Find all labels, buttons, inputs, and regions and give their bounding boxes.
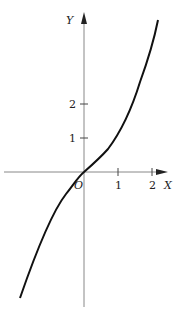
y-tick-label-1: 1	[69, 132, 76, 145]
x-axis-arrow-icon	[156, 169, 168, 175]
y-axis-label: Y	[66, 14, 75, 27]
chart-figure: 1 2 1 2 X Y O	[0, 0, 176, 313]
x-tick-label-2: 2	[149, 179, 156, 192]
y-axis-arrow-icon	[81, 12, 87, 24]
data-curve	[20, 20, 158, 298]
x-axis-label: X	[163, 179, 173, 192]
y-tick-label-2: 2	[69, 98, 76, 111]
x-tick-label-1: 1	[115, 179, 122, 192]
